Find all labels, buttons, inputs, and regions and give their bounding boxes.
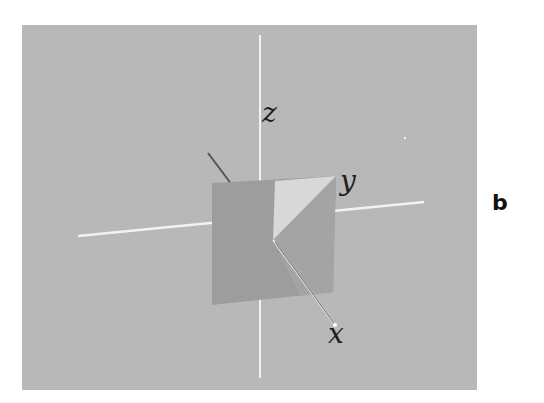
x-axis-label: x	[328, 317, 344, 350]
panel-letter: b	[492, 190, 508, 215]
z-axis-label: z	[261, 96, 277, 129]
stray-dot	[404, 137, 406, 139]
x-axis-back-line	[208, 153, 232, 185]
3d-axes-diagram: z y x	[0, 0, 544, 403]
y-axis-label: y	[338, 164, 357, 197]
